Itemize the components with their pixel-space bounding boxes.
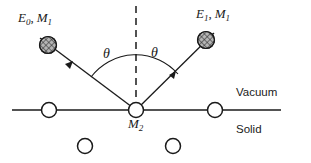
subsurface-atom-right-icon xyxy=(166,139,181,154)
incident-mass-subscript: 1 xyxy=(48,17,53,27)
incident-energy-symbol: E xyxy=(17,10,26,25)
incident-ray-arrowhead-icon xyxy=(65,61,73,69)
target-mass-subscript: 2 xyxy=(139,123,144,133)
angle-label-right: θ xyxy=(151,45,158,60)
incident-particle-label: E0,M1 xyxy=(17,10,52,27)
scattered-mass-subscript: 1 xyxy=(226,13,231,23)
incident-particle-hatch-overlay-icon xyxy=(40,37,57,54)
scattered-particle-label: E1,M1 xyxy=(195,6,230,23)
target-atom-label: M2 xyxy=(127,116,144,133)
region-label-vacuum: Vacuum xyxy=(236,86,277,98)
scattered-label-separator: , xyxy=(208,6,211,21)
scattered-energy-symbol: E xyxy=(195,6,204,21)
scattering-diagram-figure: E0,M1 E1,M1 M2 θ θ Vacuum Solid xyxy=(0,0,311,163)
scattered-ray-arrowhead-icon xyxy=(169,71,176,79)
scattered-particle-hatch-overlay-icon xyxy=(198,32,215,49)
surface-atom-right-icon xyxy=(208,103,223,118)
region-label-solid: Solid xyxy=(236,123,262,135)
surface-atom-left-icon xyxy=(42,103,57,118)
angle-label-left: θ xyxy=(103,46,110,61)
subsurface-atom-left-icon xyxy=(78,139,93,154)
diagram-canvas: E0,M1 E1,M1 M2 θ θ Vacuum Solid xyxy=(0,0,311,163)
incident-label-separator: , xyxy=(30,10,33,25)
